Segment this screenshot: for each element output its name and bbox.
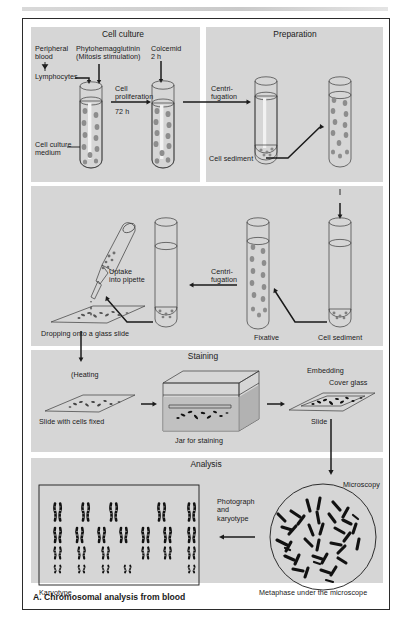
- chromosome-pair: [98, 528, 105, 542]
- chromosome-pair: [78, 566, 85, 573]
- chromosome-pair: [188, 528, 195, 542]
- chromosome-pair: [188, 504, 195, 521]
- chromosome-pair: [76, 528, 83, 542]
- chromosome-pair: [54, 566, 61, 573]
- chromosome-pair: [142, 528, 149, 542]
- chromosome-pair: [82, 504, 89, 521]
- page-rule: [22, 7, 388, 11]
- chromosome-pair: [124, 566, 131, 573]
- chromosome-pair: [110, 504, 117, 521]
- microscope-field: [270, 484, 376, 590]
- chromosome-pair: [164, 548, 171, 559]
- chromosome-pair: [102, 548, 109, 559]
- chromosome-pair: [188, 548, 195, 559]
- karyotype-grid: [39, 485, 199, 585]
- chromosome-pair: [120, 528, 127, 542]
- chromosome-pair: [102, 566, 109, 573]
- chromosome-pair: [164, 528, 171, 542]
- figure-caption: A. Chromosomal analysis from blood: [33, 592, 185, 602]
- chromosome-pair: [142, 548, 149, 559]
- chromosome-pair: [188, 566, 195, 573]
- figure-frame: Cell culture Preparation Peripheral bloo…: [22, 18, 390, 610]
- chromosome-pair: [78, 548, 85, 559]
- chromosome-pair: [158, 504, 165, 521]
- figure-root: Cell culture Preparation Peripheral bloo…: [0, 0, 408, 642]
- chromosome-pair: [54, 548, 61, 559]
- chromosome-pair: [54, 504, 61, 521]
- chromosome-pair: [54, 528, 61, 542]
